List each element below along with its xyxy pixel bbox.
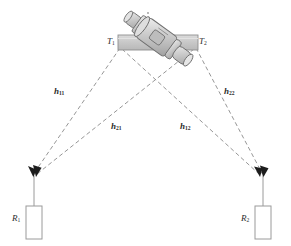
channel-path-h11 — [34, 48, 121, 174]
channel-path-h12 — [122, 49, 259, 174]
label-channel-h22: h22 — [224, 87, 234, 97]
diagram-svg — [0, 0, 291, 246]
channel-path-h22 — [196, 48, 263, 174]
receiver-arrowheads — [28, 165, 269, 178]
label-channel-h11: h11 — [54, 87, 64, 97]
figure-canvas: T1 T2 h11 h21 h12 h22 R1 R2 — [0, 0, 291, 246]
label-transmitter-t1: T1 — [107, 37, 115, 47]
top-speck-marker — [147, 12, 149, 14]
channel-path-h21 — [37, 49, 194, 174]
label-receiver-r2: R2 — [241, 214, 249, 224]
receiver-box-r1 — [26, 206, 42, 239]
receiver-bodies — [26, 206, 271, 239]
label-receiver-r1: R1 — [12, 214, 20, 224]
channel-paths — [34, 48, 263, 174]
label-transmitter-t2: T2 — [199, 37, 207, 47]
receiver-stems — [34, 176, 263, 206]
label-channel-h12: h12 — [180, 122, 190, 132]
receiver-box-r2 — [255, 206, 271, 239]
label-channel-h21: h21 — [111, 122, 121, 132]
